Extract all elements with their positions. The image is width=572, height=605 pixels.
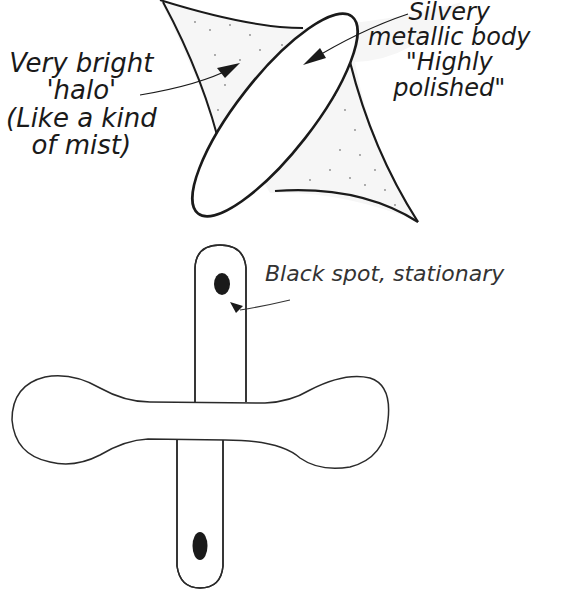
halo-label-line-2: 'halo' [6, 77, 157, 104]
halo-label-line-1: Very bright [6, 50, 157, 77]
spot-arrow [240, 300, 290, 310]
black-spot-top [214, 273, 230, 295]
body-label-line-2: metallic body [368, 25, 530, 50]
halo-label-line-3: (Like a kind [6, 105, 157, 132]
body-label-line-3: "Highly [368, 50, 530, 75]
halo-label: Very bright 'halo' (Like a kind of mist) [6, 50, 157, 159]
dumbbell-shape [12, 376, 389, 469]
body-label: Silvery metallic body "Highly polished" [368, 0, 530, 101]
black-spot-label: Black spot, stationary [265, 262, 504, 285]
vertical-bar-top [195, 245, 246, 402]
body-label-line-1: Silvery [368, 0, 530, 25]
body-label-line-4: polished" [368, 76, 530, 101]
halo-label-line-4: of mist) [6, 132, 157, 159]
black-spot-bottom [193, 532, 208, 560]
